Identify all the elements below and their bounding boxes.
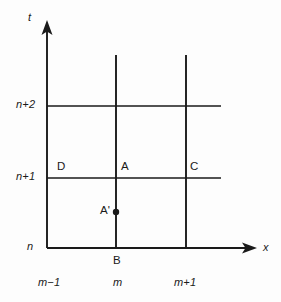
spacetime-lattice-figure: t x n+2 n+1 n m−1 m m+1 D A C A' B	[0, 0, 281, 302]
point-label-c: C	[190, 161, 199, 173]
t-axis-label: t	[28, 12, 31, 23]
point-label-a-prime: A'	[100, 205, 110, 217]
x-tick-label-m-plus-1: m+1	[174, 277, 196, 288]
x-tick-label-m: m	[113, 277, 122, 288]
y-tick-label-n-plus-2: n+2	[16, 99, 35, 110]
diagram-canvas	[0, 0, 281, 302]
x-tick-label-m-minus-1: m−1	[38, 277, 60, 288]
y-tick-label-n: n	[27, 241, 33, 252]
point-label-b: B	[113, 255, 121, 267]
point-label-a: A	[121, 161, 129, 173]
y-tick-label-n-plus-1: n+1	[16, 171, 35, 182]
x-axis-label: x	[263, 242, 269, 253]
point-label-d: D	[57, 161, 66, 173]
point-a-prime-marker	[113, 209, 119, 215]
